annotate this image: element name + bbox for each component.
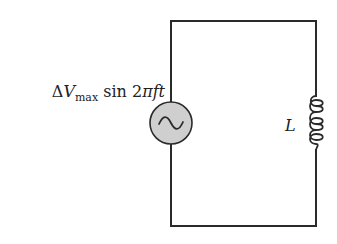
inductor-label: L bbox=[285, 118, 296, 134]
pi-symbol: π bbox=[142, 82, 153, 101]
source-voltage-label: ΔVmax sin 2πft bbox=[52, 84, 165, 100]
ac-source-icon bbox=[150, 102, 192, 144]
frequency-time-vars: ft bbox=[153, 82, 165, 101]
voltage-symbol: V bbox=[63, 82, 75, 101]
sine-function: sin 2 bbox=[98, 82, 142, 101]
voltage-subscript: max bbox=[75, 91, 98, 104]
inductor-coil-icon bbox=[310, 96, 323, 150]
delta-symbol: Δ bbox=[52, 82, 64, 101]
